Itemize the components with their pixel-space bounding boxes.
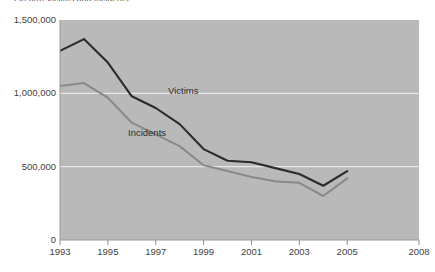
x-axis-tick-label: 2008 — [408, 246, 429, 257]
x-axis-tick-label: 1995 — [97, 246, 118, 257]
series-label-incidents: Incidents — [128, 127, 166, 138]
series-label-victims: Victims — [168, 85, 198, 96]
x-axis-labels: 19931995199719992001200320052008 — [0, 246, 435, 262]
series-line-incidents — [60, 83, 347, 196]
series-lines — [60, 39, 347, 196]
x-axis-tick-label: 1997 — [145, 246, 166, 257]
y-axis-tick-label: 500,000 — [22, 161, 56, 172]
x-axis-tick-label: 2003 — [289, 246, 310, 257]
chart-plot-svg — [60, 20, 419, 240]
y-axis-tick-label: 1,000,000 — [14, 87, 56, 98]
y-axis-tick-label: 1,500,000 — [14, 14, 56, 25]
x-axis-tick-label: 1993 — [49, 246, 70, 257]
x-axis-tick-label: 2005 — [337, 246, 358, 257]
x-axis-tick-label: 2001 — [241, 246, 262, 257]
plot-area: Victims Incidents — [60, 20, 419, 240]
gridlines — [60, 20, 419, 167]
y-axis-tick-label: 0 — [51, 234, 56, 245]
x-axis-tick-label: 1999 — [193, 246, 214, 257]
y-axis-labels: 1,500,0001,000,000500,0000 — [0, 0, 56, 272]
series-line-victims — [60, 39, 347, 186]
